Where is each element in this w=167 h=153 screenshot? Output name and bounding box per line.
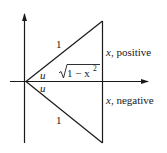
hyp-lower-label: 1 <box>56 114 62 126</box>
hyp-upper-label: 1 <box>56 38 62 50</box>
sqrt-radicand-text: 1 − x <box>67 67 90 79</box>
angle-lower-label: u <box>40 82 46 94</box>
x-negative-label: x, negative <box>105 94 154 106</box>
x-positive-label: x, positive <box>105 46 151 58</box>
triangle-diagram: 1 1 u u 1 − x 2 x, positive x, negative <box>0 0 167 153</box>
lower-hypotenuse <box>26 82 103 144</box>
x-positive-text: , positive <box>111 46 151 58</box>
sqrt-exponent: 2 <box>93 64 97 73</box>
upper-hypotenuse <box>26 21 103 82</box>
sqrt-expression: 1 − x 2 <box>59 64 100 79</box>
x-negative-text: , negative <box>111 94 154 106</box>
angle-upper-label: u <box>40 69 46 81</box>
sqrt-radicand: 1 − x <box>67 67 90 79</box>
